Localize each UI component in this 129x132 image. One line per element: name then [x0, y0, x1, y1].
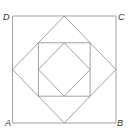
- second-square-rotated: [13, 16, 117, 123]
- label-a: A: [4, 118, 11, 128]
- nested-squares-diagram: D C A B: [0, 0, 129, 132]
- outer-square-abcd: [13, 16, 117, 123]
- label-d: D: [3, 12, 10, 22]
- label-b: B: [117, 118, 123, 128]
- label-c: C: [118, 12, 125, 22]
- third-square: [38, 43, 90, 96]
- inner-square-rotated: [38, 43, 90, 96]
